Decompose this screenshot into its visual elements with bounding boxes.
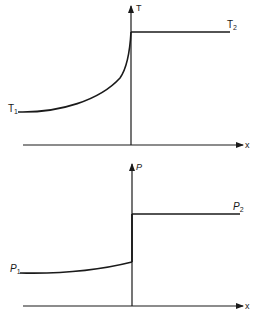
p2-label: P2 [233, 201, 244, 213]
pressure-upstream-curve [20, 262, 132, 273]
pressure-panel: x P P1 P2 [10, 162, 250, 311]
pressure-x-axis-label: x [245, 301, 250, 311]
diagram-canvas: x T T1 T2 x P P1 [0, 0, 261, 317]
temperature-upstream-curve [18, 32, 131, 112]
t1-label: T1 [8, 103, 18, 115]
temperature-x-axis-label: x [245, 140, 250, 150]
temperature-panel: x T T1 T2 [8, 3, 250, 150]
pressure-y-axis-label: P [136, 162, 142, 172]
p1-label: P1 [10, 263, 21, 275]
t2-label: T2 [227, 19, 237, 31]
temperature-y-axis-label: T [136, 3, 142, 13]
